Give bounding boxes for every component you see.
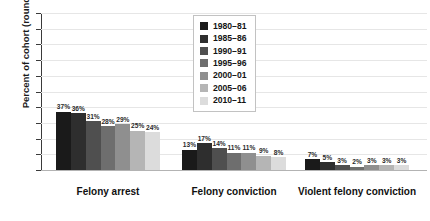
bar-item: 3% xyxy=(364,13,379,170)
gridline xyxy=(41,170,427,171)
bar-group: 37%36%31%28%29%25%24% xyxy=(56,13,160,170)
bar-item: 28% xyxy=(101,13,116,170)
bar-value-label: 13% xyxy=(183,141,196,148)
legend-label: 1990–91 xyxy=(213,47,246,56)
legend: 1980–811985–861990–911995–962000–012005–… xyxy=(193,15,256,112)
legend-swatch-icon xyxy=(200,97,208,105)
bar-group: 7%5%3%2%3%3%3% xyxy=(305,13,409,170)
legend-item: 2010–11 xyxy=(200,94,246,106)
legend-swatch-icon xyxy=(200,84,208,92)
bar-value-label: 3% xyxy=(397,157,407,164)
bar xyxy=(394,165,409,170)
bar xyxy=(320,162,335,170)
legend-item: 2000–01 xyxy=(200,70,246,82)
legend-swatch-icon xyxy=(200,22,208,30)
legend-swatch-icon xyxy=(200,72,208,80)
x-axis-category-label: Felony conviction xyxy=(191,186,276,197)
bar-item: 8% xyxy=(271,13,286,170)
bar-item: 5% xyxy=(320,13,335,170)
legend-item: 1980–81 xyxy=(200,20,246,32)
bar-item: 25% xyxy=(130,13,145,170)
legend-label: 1995–96 xyxy=(213,59,246,68)
bar-value-label: 11% xyxy=(242,144,255,151)
legend-label: 1980–81 xyxy=(213,22,246,31)
bar xyxy=(71,113,86,170)
bar xyxy=(227,153,242,170)
bar-item: 9% xyxy=(256,13,271,170)
bar xyxy=(212,148,227,170)
bar-value-label: 7% xyxy=(308,151,318,158)
bar-value-label: 11% xyxy=(228,144,241,151)
legend-swatch-icon xyxy=(200,47,208,55)
bar xyxy=(197,143,212,170)
bar-item: 24% xyxy=(145,13,160,170)
bar-value-label: 3% xyxy=(337,157,347,164)
bar xyxy=(350,167,365,170)
x-axis-category-label: Violent felony conviction xyxy=(298,186,416,197)
bar-item: 29% xyxy=(115,13,130,170)
bar-item: 37% xyxy=(56,13,71,170)
bar-item: 31% xyxy=(86,13,101,170)
bar xyxy=(379,165,394,170)
legend-swatch-icon xyxy=(200,35,208,43)
bar-value-label: 29% xyxy=(116,116,129,123)
bar xyxy=(56,112,71,170)
bar-item: 2% xyxy=(350,13,365,170)
x-axis-category-label: Felony arrest xyxy=(77,186,140,197)
legend-item: 1990–91 xyxy=(200,45,246,57)
bar xyxy=(145,132,160,170)
bar-value-label: 2% xyxy=(352,158,362,165)
y-axis-title: Percent of cohort (rounded) xyxy=(20,0,31,126)
bar xyxy=(130,131,145,170)
bar-value-label: 9% xyxy=(259,147,269,154)
bar xyxy=(182,150,197,170)
bar-value-label: 31% xyxy=(87,113,100,120)
bar-value-label: 36% xyxy=(72,105,85,112)
legend-swatch-icon xyxy=(200,59,208,67)
bar-value-label: 3% xyxy=(367,157,377,164)
bar xyxy=(256,156,271,170)
legend-item: 1995–96 xyxy=(200,57,246,69)
bar xyxy=(86,121,101,170)
legend-label: 2010–11 xyxy=(213,96,246,105)
bar-value-label: 28% xyxy=(101,118,114,125)
bar-item: 3% xyxy=(379,13,394,170)
bar-item: 7% xyxy=(305,13,320,170)
bar-value-label: 37% xyxy=(57,103,70,110)
bar-value-label: 8% xyxy=(274,149,284,156)
bar xyxy=(305,159,320,170)
bar-item: 3% xyxy=(335,13,350,170)
legend-label: 2000–01 xyxy=(213,71,246,80)
legend-label: 2005–06 xyxy=(213,84,246,93)
bar-value-label: 17% xyxy=(198,135,211,142)
bar xyxy=(115,124,130,170)
legend-label: 1985–86 xyxy=(213,34,246,43)
bar xyxy=(271,157,286,170)
bar xyxy=(241,153,256,170)
bar-value-label: 25% xyxy=(131,122,144,129)
bar-chart: Percent of cohort (rounded) 010203040506… xyxy=(0,0,430,221)
legend-item: 1985–86 xyxy=(200,32,246,44)
bar xyxy=(335,165,350,170)
bar-value-label: 14% xyxy=(213,140,226,147)
legend-item: 2005–06 xyxy=(200,82,246,94)
bar-value-label: 5% xyxy=(323,154,333,161)
bar xyxy=(101,126,116,170)
bar-value-label: 24% xyxy=(146,124,159,131)
bar-item: 3% xyxy=(394,13,409,170)
bar xyxy=(364,165,379,170)
bar-item: 36% xyxy=(71,13,86,170)
bar-value-label: 3% xyxy=(382,157,392,164)
